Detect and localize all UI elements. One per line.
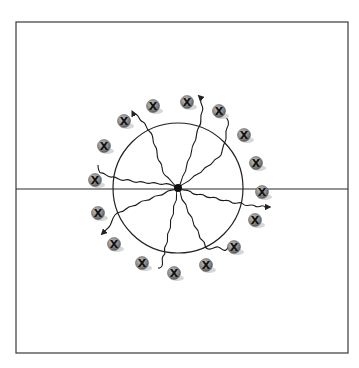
particle-label: X <box>94 207 103 220</box>
particle-x: X <box>118 115 135 130</box>
particle-label: X <box>230 241 239 254</box>
diagram-frame <box>16 22 348 353</box>
particle-label: X <box>91 174 100 187</box>
particle-label: X <box>170 267 179 280</box>
particle-label: X <box>120 115 129 128</box>
particle-label: X <box>240 129 249 142</box>
ray-upper-left <box>133 113 178 188</box>
particle-x: X <box>108 238 125 253</box>
particle-label: X <box>202 259 211 272</box>
particle-x: X <box>200 259 217 274</box>
diagram-canvas: XXXXXXXXXXXXXXXX <box>0 0 359 368</box>
particle-x: X <box>136 257 153 272</box>
ray-upper-center <box>178 97 203 188</box>
particle-x: X <box>92 207 109 222</box>
particle-label: X <box>258 186 267 199</box>
particle-label: X <box>138 257 147 270</box>
particle-label: X <box>251 214 260 227</box>
particle-label: X <box>100 140 109 153</box>
ray-lower-left <box>103 188 178 233</box>
particle-x: X <box>228 241 245 256</box>
particle-x: X <box>89 174 106 189</box>
particle-x: X <box>98 140 115 155</box>
particle-x: X <box>238 129 255 144</box>
ray-lower-center <box>158 188 178 268</box>
particle-x: X <box>147 100 164 115</box>
particle-label: X <box>183 96 192 109</box>
particle-x: X <box>168 267 185 282</box>
central-source <box>174 184 182 192</box>
particle-x: X <box>256 186 273 201</box>
particle-label: X <box>149 100 158 113</box>
particle-label: X <box>215 105 224 118</box>
particle-label: X <box>110 238 119 251</box>
particle-x: X <box>181 96 198 111</box>
particle-x: X <box>249 214 266 229</box>
ray-lower-right <box>178 188 230 251</box>
particle-label: X <box>252 157 261 170</box>
particle-x: X <box>213 105 230 120</box>
particle-x: X <box>250 157 267 172</box>
ray-right <box>178 188 268 207</box>
